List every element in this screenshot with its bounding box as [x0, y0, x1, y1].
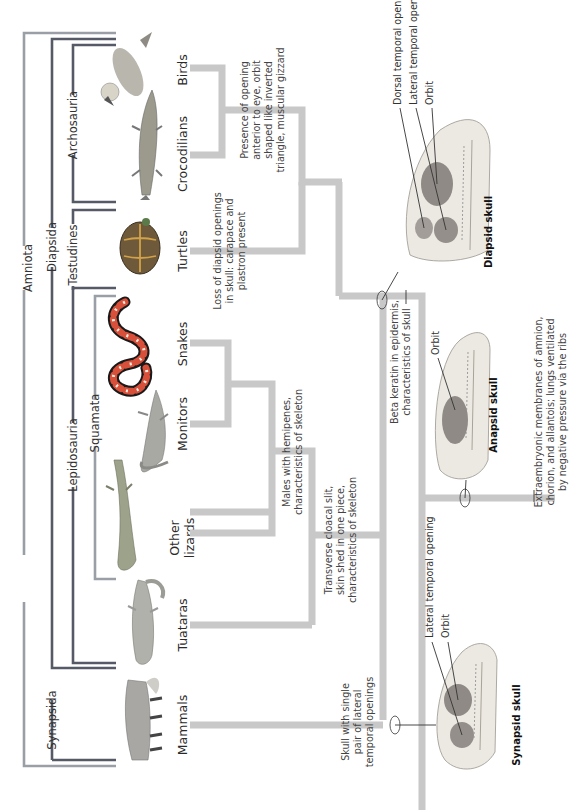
svg-text:characteristics of skeleton: characteristics of skeleton	[347, 477, 358, 603]
diapsid-label-orbit: Orbit	[424, 81, 435, 105]
taxon-label-mammals: Mammals	[175, 695, 190, 755]
tuatara-icon	[128, 580, 163, 664]
svg-text:triangle, muscular gizzard: triangle, muscular gizzard	[275, 48, 286, 173]
diapsid-skull: Dorsal temporal opening Lateral temporal…	[377, 0, 494, 309]
clade-label-testudines: Testudines	[66, 225, 80, 287]
svg-text:by negative pressure via the r: by negative pressure via the ribs	[557, 333, 568, 491]
synapsid-skull: Lateral temporal opening Orbit Synapsid …	[390, 516, 522, 769]
monitor-lizard-icon	[138, 390, 168, 472]
synapsid-label-orbit: Orbit	[440, 614, 451, 638]
animal-illustrations	[101, 32, 168, 760]
taxon-label-crocodilians: Crocodilians	[175, 116, 190, 192]
svg-text:shaped like inverted: shaped like inverted	[263, 61, 274, 159]
diapsid-skull-title: Diapsid skull	[483, 196, 494, 268]
synapsid-skull-title: Synapsid skull	[511, 684, 522, 765]
bird-icon	[101, 32, 152, 106]
taxon-label-other-lizards-line2: lizards	[182, 518, 197, 559]
svg-text:Extraembryonic membranes of am: Extraembryonic membranes of amnion,	[533, 316, 544, 507]
character-archosaur: Presence of opening anterior to eye, orb…	[239, 48, 286, 173]
synapsida-bracket	[52, 700, 116, 760]
clade-label-squamata: Squamata	[88, 394, 102, 453]
diapsida-bracket	[52, 39, 116, 668]
character-lepidosaur: Transverse cloacal slit, skin shed in on…	[323, 477, 358, 603]
svg-text:Loss of diapsid openings: Loss of diapsid openings	[212, 192, 223, 310]
cladogram-figure: Amniota Synapsida Diapsida Archosauria T…	[0, 0, 580, 810]
svg-text:Beta keratin in epidermis,: Beta keratin in epidermis,	[389, 300, 400, 424]
character-squamate: Males with hemipenes, characteristics of…	[281, 389, 304, 515]
svg-text:pair of lateral: pair of lateral	[352, 690, 363, 755]
svg-text:plastron present: plastron present	[236, 211, 247, 290]
svg-text:Transverse cloacal slit,: Transverse cloacal slit,	[323, 486, 334, 596]
svg-text:characteristics of skull: characteristics of skull	[401, 308, 412, 415]
svg-text:temporal openings: temporal openings	[364, 677, 375, 767]
taxon-label-other-lizards-line1: Other	[167, 519, 182, 555]
character-synapsid: Skull with single pair of lateral tempor…	[340, 677, 375, 767]
svg-text:Presence of opening: Presence of opening	[239, 61, 250, 159]
svg-text:anterior to eye, orbit: anterior to eye, orbit	[251, 60, 262, 160]
taxon-label-birds: Birds	[175, 54, 190, 85]
svg-text:skin shed in one piece,: skin shed in one piece,	[335, 485, 346, 595]
other-lizard-icon	[106, 460, 136, 570]
anapsid-skull-title: Anapsid skull	[488, 377, 499, 452]
anapsid-label-orbit: Orbit	[430, 331, 441, 355]
clade-label-amniota: Amniota	[21, 244, 35, 292]
svg-text:Males with hemipenes,: Males with hemipenes,	[281, 397, 292, 507]
clade-label-archosauria: Archosauria	[66, 91, 80, 159]
crocodile-icon	[132, 90, 162, 200]
diapsid-label-dorsal: Dorsal temporal opening	[392, 0, 403, 105]
character-reptile: Beta keratin in epidermis, characteristi…	[389, 290, 412, 424]
taxon-label-snakes: Snakes	[175, 322, 190, 367]
taxon-label-turtles: Turtles	[175, 230, 190, 272]
clade-label-synapsida: Synapsida	[45, 690, 59, 749]
snake-icon	[113, 302, 147, 391]
anapsid-skull: Orbit Anapsid skull	[430, 331, 499, 507]
taxon-label-monitors: Monitors	[175, 397, 190, 451]
synapsid-label-lateral: Lateral temporal opening	[424, 516, 435, 638]
turtle-icon	[120, 218, 160, 274]
svg-text:Skull with single: Skull with single	[340, 683, 351, 761]
mammal-icon	[125, 678, 162, 760]
diapsid-label-lateral: Lateral temporal opening	[408, 0, 419, 105]
svg-text:chorion, and allantois; lungs: chorion, and allantois; lungs ventilated	[545, 318, 556, 505]
character-turtle: Loss of diapsid openings in skull: carap…	[212, 192, 247, 310]
svg-text:characteristics of skeleton: characteristics of skeleton	[293, 389, 304, 515]
clade-label-diapsida: Diapsida	[45, 222, 59, 272]
anapsid-orbit	[442, 396, 468, 444]
character-amniote: Extraembryonic membranes of amnion, chor…	[533, 316, 568, 507]
taxon-label-tuataras: Tuataras	[175, 598, 190, 652]
svg-text:in skull: carapace and: in skull: carapace and	[224, 199, 235, 304]
clade-label-lepidosauria: Lepidosauria	[66, 418, 80, 491]
